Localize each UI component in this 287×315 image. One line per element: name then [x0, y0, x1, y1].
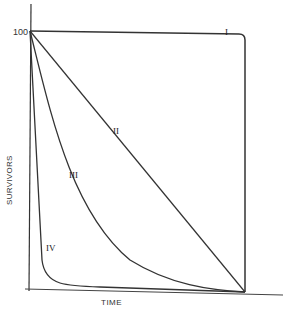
curve-IV-label: IV [46, 243, 56, 253]
curve-II-label: II [113, 126, 119, 136]
y-axis-label: SURVIVORS [5, 155, 14, 205]
x-axis-label: TIME [101, 298, 122, 307]
curve-III-label: III [69, 170, 78, 180]
y-tick-100: 100 [13, 27, 28, 37]
curve-I-label: I [225, 27, 228, 37]
survivorship-chart: 100 SURVIVORS TIME I II III IV [0, 0, 287, 315]
curve-II [30, 31, 245, 292]
